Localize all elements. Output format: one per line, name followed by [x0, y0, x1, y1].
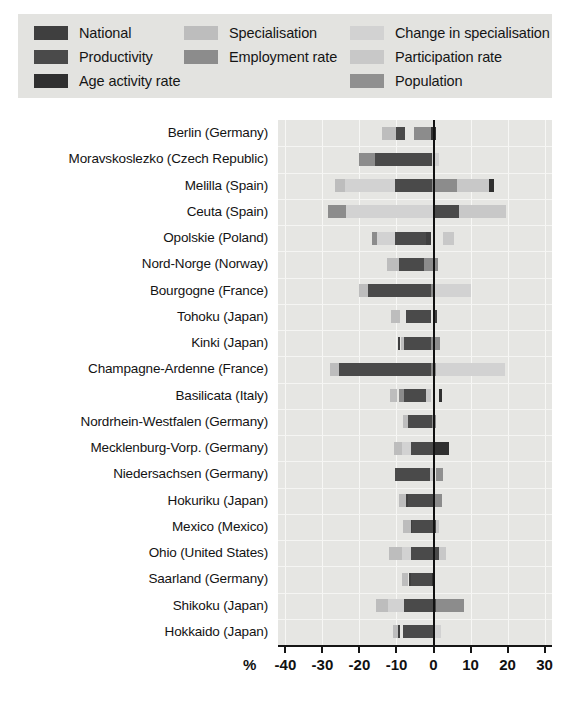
legend-row: NationalSpecialisationChange in speciali…: [18, 21, 552, 45]
bar-segment-age_activity_rate: [434, 442, 450, 455]
row-separator: [278, 514, 552, 515]
legend-label-productivity: Productivity: [79, 49, 153, 65]
bar-segment-participation_rate: [459, 205, 506, 218]
row-separator: [278, 409, 552, 410]
category-label: Champagne-Ardenne (France): [88, 361, 268, 376]
bar-segment-specialisation: [399, 494, 406, 507]
category-label: Hokuriku (Japan): [168, 493, 268, 508]
axis-tick-label: 30: [536, 656, 553, 673]
legend-swatch-change_in_specialisation: [350, 26, 384, 40]
legend-item-change_in_specialisation[interactable]: Change in specialisation: [350, 21, 550, 45]
axis-tick: [433, 645, 435, 653]
category-label: Mecklenburg-Vorp. (Germany): [90, 440, 268, 455]
axis-tick: [395, 645, 397, 653]
bar-segment-specialisation: [390, 389, 397, 402]
value-axis: -40-30-20-100102030: [278, 645, 552, 691]
bar-row: [278, 179, 552, 192]
legend-item-national[interactable]: National: [18, 21, 184, 45]
category-label: Niedersachsen (Germany): [113, 466, 268, 481]
legend-swatch-national: [34, 26, 68, 40]
bar-segment-specialisation: [403, 520, 410, 533]
category-axis-labels: Berlin (Germany)Moravskoslezko (Czech Re…: [0, 110, 276, 636]
axis-tick: [470, 645, 472, 653]
bar-segment-participation_rate: [436, 520, 440, 533]
bar-segment-productivity: [396, 127, 405, 140]
bar-row: [278, 258, 552, 271]
category-label: Bourgogne (France): [150, 283, 268, 298]
bar-segment-specialisation: [391, 310, 400, 323]
row-separator: [278, 593, 552, 594]
row-separator: [278, 566, 552, 567]
axis-line: [278, 645, 552, 647]
legend-swatch-participation_rate: [350, 50, 384, 64]
legend-swatch-productivity: [34, 50, 68, 64]
bar-segment-participation_rate: [439, 547, 446, 560]
bar-segment-productivity: [406, 310, 431, 323]
bar-segment-productivity: [404, 337, 431, 350]
bar-segment-specialisation: [382, 127, 396, 140]
bar-row: [278, 442, 552, 455]
bar-segment-change_in_specialisation: [402, 547, 411, 560]
row-separator: [278, 356, 552, 357]
bar-segment-participation_rate: [426, 389, 431, 402]
category-label: Hokkaido (Japan): [165, 624, 268, 639]
bar-row: [278, 415, 552, 428]
axis-tick-label: -40: [275, 656, 297, 673]
axis-tick-label: 20: [499, 656, 516, 673]
row-separator: [278, 199, 552, 200]
bar-segment-productivity: [399, 258, 424, 271]
category-label: Melilla (Spain): [185, 178, 268, 193]
legend-item-employment_rate[interactable]: Employment rate: [184, 45, 350, 69]
row-separator: [278, 146, 552, 147]
bar-row: [278, 389, 552, 402]
bar-segment-age_activity_rate: [439, 389, 442, 402]
legend-item-productivity[interactable]: Productivity: [18, 45, 184, 69]
legend-label-age_activity_rate: Age activity rate: [79, 73, 180, 89]
bar-segment-change_in_specialisation: [388, 599, 404, 612]
axis-tick: [284, 645, 286, 653]
row-separator: [278, 173, 552, 174]
row-separator: [278, 225, 552, 226]
category-label: Nordrhein-Westfalen (Germany): [81, 414, 268, 429]
axis-tick-label: 0: [429, 656, 437, 673]
zero-line: [433, 120, 435, 645]
row-separator: [278, 251, 552, 252]
category-label: Shikoku (Japan): [173, 598, 268, 613]
category-label: Ohio (United States): [149, 545, 268, 560]
bar-segment-national: [398, 625, 400, 638]
legend-item-blank[interactable]: [184, 69, 350, 93]
bar-row: [278, 494, 552, 507]
bar-row: [278, 284, 552, 297]
legend-item-specialisation[interactable]: Specialisation: [184, 21, 350, 45]
axis-tick: [507, 645, 509, 653]
bar-segment-productivity: [411, 573, 432, 586]
row-separator: [278, 330, 552, 331]
bar-segment-population: [436, 468, 443, 481]
chart-body: Berlin (Germany)Moravskoslezko (Czech Re…: [0, 110, 570, 670]
bar-row: [278, 599, 552, 612]
axis-tick-label: 10: [462, 656, 479, 673]
legend-label-employment_rate: Employment rate: [229, 49, 337, 65]
bar-segment-specialisation: [330, 363, 339, 376]
category-label: Berlin (Germany): [168, 125, 268, 140]
bar-row: [278, 573, 552, 586]
row-separator: [278, 540, 552, 541]
bar-row: [278, 127, 552, 140]
legend-swatch-employment_rate: [184, 50, 218, 64]
legend-item-participation_rate[interactable]: Participation rate: [350, 45, 550, 69]
bar-segment-employment_rate: [432, 179, 457, 192]
row-separator: [278, 435, 552, 436]
bar-segment-employment_rate: [328, 205, 346, 218]
legend-item-age_activity_rate[interactable]: Age activity rate: [18, 69, 184, 93]
bar-segment-employment_rate: [414, 127, 430, 140]
bar-segment-specialisation: [394, 442, 401, 455]
bar-segment-employment_rate: [424, 258, 438, 271]
legend-label-population: Population: [395, 73, 463, 89]
bar-segment-specialisation: [387, 258, 399, 271]
legend-row: ProductivityEmployment rateParticipation…: [18, 45, 552, 69]
bar-segment-productivity: [411, 442, 434, 455]
legend-item-population[interactable]: Population: [350, 69, 550, 93]
axis-tick: [321, 645, 323, 653]
bar-row: [278, 363, 552, 376]
bar-row: [278, 468, 552, 481]
